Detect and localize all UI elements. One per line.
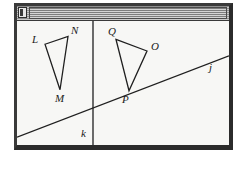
line-label-k: k bbox=[81, 127, 86, 139]
window-title-bar[interactable] bbox=[17, 6, 229, 21]
triangle-OPQ[interactable] bbox=[116, 39, 147, 90]
lines-group bbox=[17, 21, 229, 145]
vertex-label-O: O bbox=[151, 40, 159, 52]
vertex-label-P: P bbox=[121, 94, 129, 106]
window-menu-icon[interactable] bbox=[18, 7, 27, 18]
geometry-canvas[interactable]: jkLNMQOP bbox=[17, 21, 229, 145]
geometry-svg: jkLNMQOP bbox=[17, 21, 229, 145]
vertex-label-N: N bbox=[70, 24, 79, 36]
vertex-label-L: L bbox=[31, 33, 38, 45]
triangle-LMN[interactable] bbox=[45, 37, 68, 90]
vertex-label-M: M bbox=[54, 93, 65, 105]
vertex-label-Q: Q bbox=[108, 25, 116, 37]
title-bar-texture bbox=[29, 7, 227, 19]
screenshot-root: jkLNMQOP bbox=[0, 0, 247, 169]
line-label-j: j bbox=[207, 62, 212, 74]
application-window: jkLNMQOP bbox=[14, 3, 233, 150]
polygons-group bbox=[45, 37, 147, 91]
